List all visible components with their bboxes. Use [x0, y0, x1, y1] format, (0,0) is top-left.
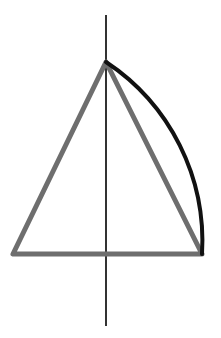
diagram-canvas — [0, 0, 221, 338]
triangle-shape — [13, 62, 202, 254]
